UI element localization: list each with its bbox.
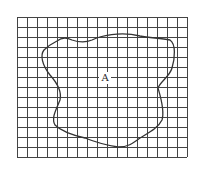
irregular-region-outline (42, 34, 174, 147)
grid-lines (17, 17, 188, 158)
grid-diagram: A (0, 0, 199, 173)
region-label: A (100, 72, 109, 83)
